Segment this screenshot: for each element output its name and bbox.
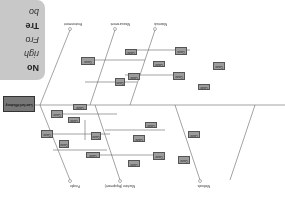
cause-box: Cause xyxy=(178,156,190,164)
cause-box: Cause xyxy=(175,47,187,55)
cause-box: Cause xyxy=(86,152,100,158)
cause-box: Cause xyxy=(59,140,69,148)
category-measurement: Measurement xyxy=(111,22,131,26)
category-people: People xyxy=(70,184,80,188)
cause-box: Cause xyxy=(198,84,210,90)
cause-box: Cause xyxy=(128,160,140,167)
cause-box: Cause xyxy=(41,130,53,138)
cause-box: Cause xyxy=(91,132,101,140)
cause-box: Cause xyxy=(153,152,165,160)
cause-box: Cause xyxy=(153,61,165,67)
cause-box: Cause xyxy=(125,49,137,55)
cause-box: Cause xyxy=(51,110,63,118)
cause-box: Cause xyxy=(213,62,225,70)
cause-box: Cause xyxy=(145,122,157,128)
cause-box: Cause xyxy=(128,73,140,80)
category-machine: Machine (Equipment) xyxy=(105,184,135,188)
cause-box: Cause xyxy=(81,57,95,65)
cause-box: Cause xyxy=(173,72,185,80)
card-line: Tre xyxy=(0,19,39,33)
category-environment: Environment xyxy=(64,22,82,26)
card-line: bo xyxy=(0,5,39,19)
category-methods: Methods xyxy=(198,184,210,188)
category-materials: Materials xyxy=(154,22,167,26)
cause-box: Cause xyxy=(115,78,125,86)
info-card: No righ Fro Tre bo xyxy=(0,0,45,80)
card-line: Fro xyxy=(0,33,39,47)
cause-box: Cause xyxy=(68,117,80,123)
cause-box: Cause xyxy=(133,135,145,142)
cause-box: Cause xyxy=(188,131,200,138)
card-line: righ xyxy=(0,47,39,61)
cause-box: Cause xyxy=(73,104,87,110)
fishbone-diagram: Low fuel efficiency Materials Measuremen… xyxy=(0,0,285,200)
card-line: No xyxy=(0,61,39,75)
problem-head: Low fuel efficiency xyxy=(3,96,35,112)
